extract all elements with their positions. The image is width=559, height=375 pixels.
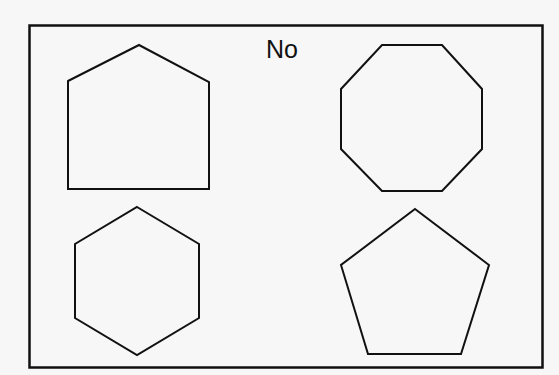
card-title: No [250,34,314,64]
card-frame [30,26,543,368]
hexagon-shape [75,207,199,355]
pentagon-shape [341,209,489,354]
house-pentagon-shape [68,45,209,189]
octagon-shape [341,45,482,191]
